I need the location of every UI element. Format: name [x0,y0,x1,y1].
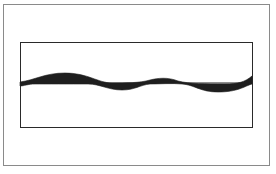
wave-band [0,0,276,174]
